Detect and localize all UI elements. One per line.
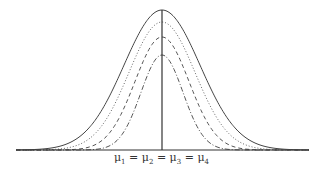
equals-sign: =: [181, 151, 197, 164]
mu-symbol: μ4: [197, 151, 209, 164]
mu-symbol: μ1: [114, 151, 126, 164]
mu-symbol: μ3: [170, 151, 182, 164]
label-parts: μ1 = μ2 = μ3 = μ4: [114, 151, 209, 164]
equals-sign: =: [153, 151, 169, 164]
mu-symbol: μ2: [142, 151, 154, 164]
equals-sign: =: [126, 151, 142, 164]
normal-curves-diagram: [0, 0, 323, 173]
mean-equality-label: μ1 = μ2 = μ3 = μ4: [0, 151, 323, 166]
